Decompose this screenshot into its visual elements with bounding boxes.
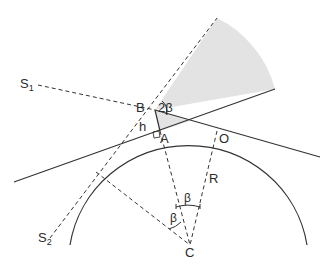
label-2beta: 2β bbox=[158, 100, 173, 115]
label-s1: S1 bbox=[20, 76, 34, 93]
segment-ac bbox=[160, 131, 190, 245]
geometry-diagram: S1 S2 B 2β h A O R β β C bbox=[0, 0, 332, 268]
label-a: A bbox=[160, 131, 169, 146]
label-r: R bbox=[209, 171, 218, 186]
solid-line-2 bbox=[155, 110, 320, 157]
label-h: h bbox=[139, 119, 146, 134]
label-s2: S2 bbox=[38, 230, 52, 247]
label-o: O bbox=[219, 131, 229, 146]
right-angle-marker bbox=[153, 131, 160, 138]
segment-oc-radius bbox=[190, 131, 217, 245]
label-b: B bbox=[136, 100, 145, 115]
label-beta-top: β bbox=[184, 191, 191, 205]
label-beta-left: β bbox=[170, 211, 177, 225]
label-c: C bbox=[185, 245, 194, 260]
shaded-sector bbox=[155, 18, 275, 110]
